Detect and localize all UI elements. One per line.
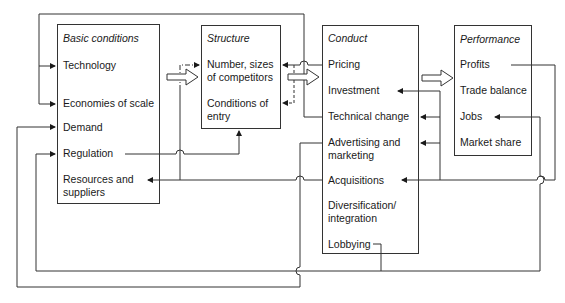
conduct-item-advertising-line1: Advertising and — [328, 136, 400, 149]
basic-item-regulation: Regulation — [63, 147, 113, 160]
basic-item-technology: Technology — [63, 59, 116, 72]
structure-item-conditions-line2: entry — [207, 110, 230, 123]
basic-item-economies-of-scale: Economies of scale — [63, 97, 154, 110]
basic-item-resources-line1: Resources and — [63, 173, 134, 186]
basic-conditions-heading: Basic conditions — [63, 32, 139, 45]
performance-item-jobs: Jobs — [460, 110, 482, 123]
flow-arrow-conduct-performance — [422, 70, 453, 86]
conduct-item-acquisitions: Acquisitions — [328, 174, 384, 187]
performance-item-profits: Profits — [460, 58, 490, 71]
conduct-item-diversification-line2: integration — [328, 212, 377, 225]
structure-heading: Structure — [207, 32, 250, 45]
conduct-item-lobbying: Lobbying — [328, 238, 371, 251]
basic-item-resources-line2: suppliers — [63, 186, 105, 199]
structure-item-number-line1: Number, sizes — [207, 58, 274, 71]
basic-item-demand: Demand — [63, 121, 103, 134]
conduct-item-advertising-line2: marketing — [328, 149, 374, 162]
conduct-item-diversification-line1: Diversification/ — [328, 199, 396, 212]
structure-item-conditions-line1: Conditions of — [207, 97, 268, 110]
performance-heading: Performance — [460, 33, 520, 46]
performance-item-trade-balance: Trade balance — [460, 84, 527, 97]
structure-item-number-line2: of competitors — [207, 71, 273, 84]
scp-diagram: Basic conditions Technology Economies of… — [0, 0, 565, 303]
performance-item-market-share: Market share — [460, 136, 521, 149]
conduct-item-investment: Investment — [328, 84, 379, 97]
flow-arrow-basic-structure — [167, 69, 198, 85]
conduct-item-technical-change: Technical change — [328, 110, 409, 123]
conduct-heading: Conduct — [328, 32, 367, 45]
conduct-item-pricing: Pricing — [328, 58, 360, 71]
